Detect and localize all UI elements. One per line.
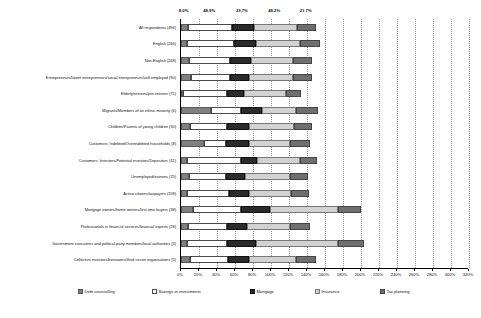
bar-row: [181, 152, 468, 169]
bar-segment-mortgage[interactable]: [227, 240, 256, 247]
legend-item[interactable]: Savings or investments: [152, 289, 201, 294]
stacked-bar[interactable]: [181, 24, 468, 31]
bar-segment-tax-planning[interactable]: [296, 256, 316, 263]
bar-segment-savings-or-investments[interactable]: [187, 190, 229, 197]
bar-segment-savings-or-investments[interactable]: [183, 90, 227, 97]
bar-segment-tax-planning[interactable]: [290, 223, 310, 230]
bar-segment-insurance[interactable]: [249, 123, 294, 130]
bar-segment-debt-counselling[interactable]: [181, 140, 204, 147]
plot-area: [180, 19, 468, 268]
stacked-bar[interactable]: [181, 90, 468, 97]
bar-segment-tax-planning[interactable]: [293, 74, 313, 81]
bar-segment-mortgage[interactable]: [226, 140, 249, 147]
legend-item[interactable]: Insurance: [315, 289, 339, 294]
top-data-label: 23,7%: [236, 8, 248, 13]
bar-segment-insurance[interactable]: [256, 40, 300, 47]
bar-segment-mortgage[interactable]: [232, 24, 253, 31]
bar-segment-tax-planning[interactable]: [291, 190, 309, 197]
bar-segment-mortgage[interactable]: [241, 107, 262, 114]
bar-segment-insurance[interactable]: [244, 90, 286, 97]
bar-segment-mortgage[interactable]: [234, 40, 257, 47]
stacked-bar[interactable]: [181, 157, 468, 164]
bar-segment-tax-planning[interactable]: [294, 123, 312, 130]
bar-segment-tax-planning[interactable]: [286, 90, 301, 97]
bar-segment-mortgage[interactable]: [229, 190, 249, 197]
bar-segment-savings-or-investments[interactable]: [187, 40, 234, 47]
bar-segment-mortgage[interactable]: [227, 90, 243, 97]
bar-row: [181, 218, 468, 235]
bar-segment-insurance[interactable]: [257, 157, 299, 164]
x-tick-label: 260%: [409, 272, 419, 277]
stacked-bar[interactable]: [181, 256, 468, 263]
bar-segment-savings-or-investments[interactable]: [191, 74, 231, 81]
legend-item[interactable]: Debt counselling: [78, 289, 115, 294]
bar-segment-tax-planning[interactable]: [297, 24, 317, 31]
bar-segment-mortgage[interactable]: [230, 74, 249, 81]
bar-segment-savings-or-investments[interactable]: [188, 24, 232, 31]
bar-segment-savings-or-investments[interactable]: [190, 123, 227, 130]
stacked-bar[interactable]: [181, 223, 468, 230]
bar-segment-savings-or-investments[interactable]: [190, 256, 228, 263]
bar-row: [181, 185, 468, 202]
bar-segment-debt-counselling[interactable]: [181, 173, 189, 180]
bar-segment-tax-planning[interactable]: [290, 140, 310, 147]
bar-segment-tax-planning[interactable]: [338, 240, 363, 247]
bar-segment-debt-counselling[interactable]: [181, 223, 188, 230]
top-data-label-group: 8,0%48,9%23,7%48,2%21,7%: [180, 8, 468, 18]
bar-segment-insurance[interactable]: [251, 57, 294, 64]
bar-segment-insurance[interactable]: [245, 173, 290, 180]
x-tick: [234, 269, 235, 271]
bar-segment-debt-counselling[interactable]: [181, 24, 188, 31]
bar-segment-mortgage[interactable]: [227, 223, 247, 230]
legend-item[interactable]: Tax planning: [380, 289, 410, 294]
bar-segment-savings-or-investments[interactable]: [204, 140, 227, 147]
bar-segment-debt-counselling[interactable]: [181, 256, 190, 263]
bar-segment-debt-counselling[interactable]: [181, 206, 193, 213]
bar-segment-insurance[interactable]: [249, 140, 290, 147]
x-tick: [216, 269, 217, 271]
bar-segment-mortgage[interactable]: [227, 123, 249, 130]
bar-segment-debt-counselling[interactable]: [181, 74, 191, 81]
bar-segment-debt-counselling[interactable]: [181, 57, 189, 64]
bar-segment-insurance[interactable]: [249, 74, 292, 81]
bar-segment-insurance[interactable]: [249, 256, 296, 263]
bar-segment-insurance[interactable]: [262, 107, 296, 114]
x-tick: [198, 269, 199, 271]
bar-segment-tax-planning[interactable]: [290, 173, 308, 180]
bar-segment-insurance[interactable]: [249, 190, 291, 197]
bar-segment-insurance[interactable]: [247, 223, 290, 230]
bar-segment-savings-or-investments[interactable]: [187, 240, 227, 247]
bar-segment-debt-counselling[interactable]: [181, 123, 190, 130]
bar-segment-insurance[interactable]: [256, 240, 339, 247]
stacked-bar[interactable]: [181, 173, 468, 180]
stacked-bar[interactable]: [181, 40, 468, 47]
bar-segment-mortgage[interactable]: [226, 173, 246, 180]
bar-segment-insurance[interactable]: [254, 24, 297, 31]
bar-segment-savings-or-investments[interactable]: [187, 157, 241, 164]
bar-segment-savings-or-investments[interactable]: [189, 173, 226, 180]
bar-segment-tax-planning[interactable]: [296, 107, 318, 114]
bar-segment-insurance[interactable]: [270, 206, 338, 213]
bar-segment-debt-counselling[interactable]: [181, 107, 211, 114]
bar-segment-mortgage[interactable]: [230, 57, 250, 64]
bar-segment-tax-planning[interactable]: [338, 206, 361, 213]
stacked-bar[interactable]: [181, 206, 468, 213]
bar-segment-tax-planning[interactable]: [300, 157, 317, 164]
legend-item[interactable]: Mortgage: [250, 289, 274, 294]
stacked-bar[interactable]: [181, 123, 468, 130]
stacked-bar[interactable]: [181, 57, 468, 64]
stacked-bar[interactable]: [181, 240, 468, 247]
bar-segment-mortgage[interactable]: [241, 206, 270, 213]
bar-segment-tax-planning[interactable]: [300, 40, 320, 47]
bar-segment-savings-or-investments[interactable]: [211, 107, 242, 114]
stacked-bar[interactable]: [181, 140, 468, 147]
stacked-bar[interactable]: [181, 74, 468, 81]
bar-segment-mortgage[interactable]: [241, 157, 257, 164]
bar-segment-savings-or-investments[interactable]: [189, 57, 230, 64]
bar-segment-savings-or-investments[interactable]: [188, 223, 228, 230]
bar-segment-savings-or-investments[interactable]: [193, 206, 242, 213]
bar-segment-tax-planning[interactable]: [293, 57, 312, 64]
stacked-bar[interactable]: [181, 107, 468, 114]
bar-segment-mortgage[interactable]: [228, 256, 250, 263]
stacked-bar[interactable]: [181, 190, 468, 197]
